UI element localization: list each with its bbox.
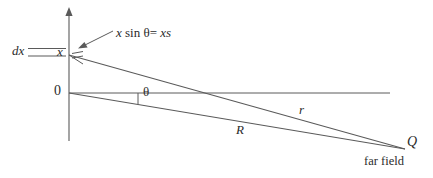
label-far-field: far field: [364, 155, 404, 168]
label-r: r: [299, 103, 304, 116]
path-difference-tick-marks: [72, 52, 83, 59]
label-origin: 0: [54, 84, 61, 98]
label-dx: dx: [12, 44, 24, 57]
ray-R-line: [69, 93, 405, 149]
label-theta: θ: [143, 85, 149, 98]
vertical-axis-arrowhead: [65, 7, 72, 16]
annotation-leader-line: [83, 31, 113, 46]
annotation-leader-arrow: [78, 31, 113, 49]
annotation-leader-arrowhead: [78, 42, 88, 48]
annotation-sin: sin: [125, 25, 140, 40]
annotation-x1: x: [116, 25, 122, 40]
annotation-equals: =: [150, 25, 157, 40]
annotation-s: s: [166, 25, 171, 40]
annotation-path-difference: x sin θ= xs: [116, 26, 171, 39]
diagram-canvas: [0, 0, 433, 178]
path-difference-tick-upper: [72, 52, 83, 54]
far-field-diffraction-diagram: dx x 0 θ R r Q far field x sin θ= xs: [0, 0, 433, 178]
label-x: x: [57, 45, 63, 58]
label-R: R: [236, 123, 244, 136]
label-Q: Q: [407, 135, 417, 149]
vertical-axis: [65, 7, 72, 141]
